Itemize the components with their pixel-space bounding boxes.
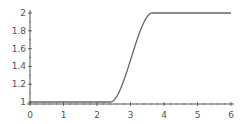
x-tick-label: 1 xyxy=(61,110,67,120)
x-tick-label: 2 xyxy=(94,110,100,120)
y-tick-label: 1 xyxy=(20,97,26,107)
x-tick-label: 6 xyxy=(228,110,234,120)
x-tick-label: 3 xyxy=(128,110,134,120)
y-tick-label: 2 xyxy=(20,8,26,18)
plot-series xyxy=(30,13,231,102)
x-tick-label: 0 xyxy=(27,110,33,120)
x-axis: 0123456 xyxy=(27,102,234,120)
y-tick-label: 1.2 xyxy=(12,79,26,89)
line-chart: 11.21.41.61.82 0123456 xyxy=(0,0,245,124)
y-tick-label: 1.6 xyxy=(12,44,27,54)
series-line xyxy=(30,13,231,102)
x-tick-label: 5 xyxy=(195,110,201,120)
y-tick-label: 1.8 xyxy=(12,26,27,36)
y-tick-label: 1.4 xyxy=(12,61,27,71)
x-tick-label: 4 xyxy=(161,110,167,120)
y-axis: 11.21.41.61.82 xyxy=(12,8,32,107)
